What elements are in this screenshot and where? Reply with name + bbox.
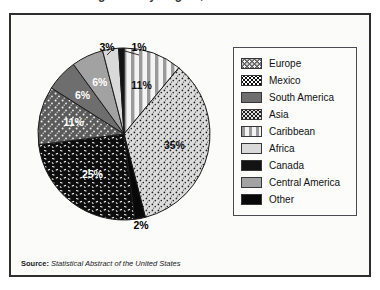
pie-svg: 11%35%25%11%6%6% 2%3%1% [19,29,229,239]
legend-label-mexico: Mexico [269,76,301,86]
legend-swatch-asia [241,109,262,120]
legend-swatch-central-america [241,177,262,188]
legend-item[interactable]: Other [241,191,350,208]
legend-item[interactable]: Caribbean [241,123,350,140]
callout-value-canada: 1% [131,41,147,53]
legend-item[interactable]: Mexico [241,72,350,89]
legend-label-other: Other [269,195,294,205]
legend-swatch-caribbean [241,126,262,137]
slice-value-asia: 35% [164,139,186,151]
legend-swatch-canada [241,160,262,171]
legend-label-asia: Asia [269,110,288,120]
legend-item[interactable]: Africa [241,140,350,157]
legend-item[interactable]: Asia [241,106,350,123]
source-title: Statistical Abstract of the United State… [51,259,180,268]
slice-value-central-america: 6% [92,76,108,88]
legend-swatch-south-america [241,92,262,103]
slice-value-south-america: 6% [75,89,91,101]
legend-label-canada: Canada [269,161,304,171]
legend-swatch-africa [241,143,262,154]
legend-label-europe: Europe [269,59,301,69]
source-lead: Source: [21,259,49,268]
slice-value-caribbean: 11% [131,79,152,91]
pie-chart: 11%35%25%11%6%6% 2%3%1% [19,29,229,239]
legend: Europe Mexico South America Asia Caribbe… [233,47,357,216]
legend-label-south-america: South America [269,93,334,103]
page-title: Immigration by Region, 2000 [70,0,233,2]
slice-value-mexico: 25% [82,168,104,180]
pie-slices [38,48,210,220]
legend-swatch-europe [241,58,262,69]
callout-value-other: 2% [133,219,149,231]
legend-item[interactable]: Canada [241,157,350,174]
legend-swatch-other [241,194,262,205]
callout-value-africa: 3% [99,41,115,53]
legend-item[interactable]: South America [241,89,350,106]
legend-label-caribbean: Caribbean [269,127,315,137]
chart-title-strip: Immigration by Region, 2000 [0,0,380,11]
source-note: Source: Statistical Abstract of the Unit… [21,259,180,268]
legend-item[interactable]: Central America [241,174,350,191]
legend-item[interactable]: Europe [241,55,350,72]
legend-swatch-mexico [241,75,262,86]
legend-label-central-america: Central America [269,178,340,188]
legend-label-africa: Africa [269,144,295,154]
slice-value-europe: 11% [63,116,84,128]
figure-frame: 11%35%25%11%6%6% 2%3%1% Europe Mexico So… [9,13,371,277]
